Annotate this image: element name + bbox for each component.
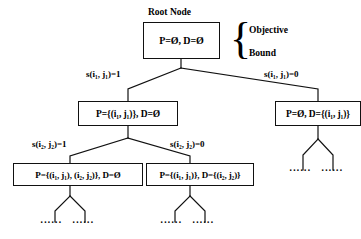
objective-bound-brace: {	[230, 17, 251, 61]
ellipsis-leaf-1: ······	[40, 217, 62, 228]
node-level3-right[interactable]: P={(i₁, j₁)}, D={(i₂, j₂)}	[146, 163, 254, 186]
ellipsis-leaf-2: ······	[72, 217, 94, 228]
edge-l2left-to-left	[70, 138, 128, 163]
edge-label-root-right: s(i₁, j₁)=0	[264, 69, 299, 79]
objective-label: Objective	[249, 25, 288, 35]
edge-label-level2-right: s(i₂, j₂)=0	[170, 139, 205, 149]
edge-label-level2-left: s(i₂, j₂)=1	[32, 139, 67, 149]
ellipsis-leaf-4: ······	[192, 217, 214, 228]
ellipsis-leaf-6: ······	[321, 165, 343, 176]
edge-label-root-left: s(i₁, j₁)=1	[86, 69, 121, 79]
diagram-canvas: Root Node P=Ø, D=Ø { Objective Bound s(i…	[0, 0, 361, 239]
node-level2-right[interactable]: P=Ø, D={(i₁, j₁)}	[275, 101, 361, 126]
bound-label: Bound	[249, 48, 276, 58]
edge-root-to-left	[128, 68, 181, 101]
root-node-caption: Root Node	[148, 7, 191, 17]
node-level3-left[interactable]: P={(i₁, j₁), (i₂, j₂)}, D=Ø	[13, 163, 143, 186]
node-root[interactable]: P=Ø, D=Ø	[143, 22, 220, 59]
ellipsis-leaf-5: ······	[289, 165, 311, 176]
node-level2-left[interactable]: P={(i₁, j₁)}, D=Ø	[78, 101, 178, 126]
ellipsis-leaf-3: ······	[160, 217, 182, 228]
